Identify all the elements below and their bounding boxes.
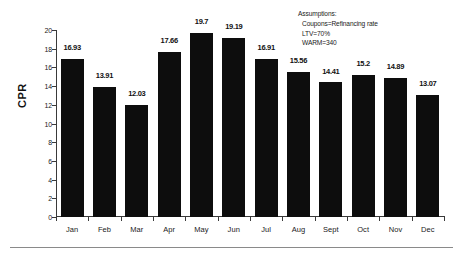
plot-area: 16.9313.9112.0317.6619.719.1916.9115.561… [56, 30, 444, 217]
y-axis-title: CPR [16, 83, 28, 108]
bar-value-label: 13.07 [419, 80, 436, 88]
bar[interactable] [125, 105, 148, 217]
x-tick-mark [153, 216, 154, 221]
y-tick-label: 4 [48, 176, 52, 183]
x-tick-mark [121, 216, 122, 221]
bar[interactable] [319, 82, 342, 217]
bar-group[interactable]: 13.07 [412, 30, 444, 217]
bar-value-label: 14.89 [387, 63, 404, 71]
bar-group[interactable]: 12.03 [121, 30, 153, 217]
x-tick-mark [88, 216, 89, 221]
footer-divider [10, 247, 453, 248]
bar-group[interactable]: 16.93 [56, 30, 88, 217]
category-label: Jan [56, 226, 88, 234]
bar-value-label: 16.91 [258, 44, 275, 52]
bar-chart-figure: CPR 16.9313.9112.0317.6619.719.1916.9115… [0, 0, 463, 261]
bar[interactable] [61, 59, 84, 217]
bar[interactable] [255, 59, 278, 217]
bar-group[interactable]: 13.91 [88, 30, 120, 217]
assumptions-annotation: Assumptions: Coupons=Refinancing rate LT… [298, 9, 378, 48]
y-tick-label: 0 [48, 214, 52, 221]
category-label: Jun [218, 226, 250, 234]
category-label: Jul [250, 226, 282, 234]
bar-value-label: 16.93 [64, 44, 81, 52]
x-tick-mark [347, 216, 348, 221]
y-tick-mark [52, 198, 57, 199]
bar-value-label: 12.03 [128, 90, 145, 98]
x-tick-mark [412, 216, 413, 221]
bar-group[interactable]: 14.89 [379, 30, 411, 217]
bar[interactable] [352, 75, 375, 217]
y-tick-mark [52, 161, 57, 162]
bar-group[interactable]: 17.66 [153, 30, 185, 217]
bar-group[interactable]: 16.91 [250, 30, 282, 217]
bar[interactable] [416, 95, 439, 217]
y-tick-mark [52, 180, 57, 181]
x-tick-mark [185, 216, 186, 221]
category-label: Mar [121, 226, 153, 234]
bar-value-label: 19.7 [195, 18, 208, 26]
bar-group[interactable]: 15.2 [347, 30, 379, 217]
x-tick-mark [379, 216, 380, 221]
bar-value-label: 17.66 [161, 37, 178, 45]
bar-value-label: 13.91 [96, 72, 113, 80]
assumptions-warm: WARM=340 [298, 38, 378, 48]
bar-group[interactable]: 14.41 [315, 30, 347, 217]
bar[interactable] [384, 78, 407, 217]
bar-group[interactable]: 19.7 [185, 30, 217, 217]
y-tick-label: 14 [45, 83, 52, 90]
y-tick-label: 10 [45, 120, 52, 127]
y-tick-label: 18 [45, 45, 52, 52]
y-tick-label: 20 [45, 27, 52, 34]
bar[interactable] [190, 33, 213, 217]
x-tick-mark [282, 216, 283, 221]
y-tick-label: 12 [45, 101, 52, 108]
x-tick-mark [56, 216, 57, 221]
x-tick-mark [250, 216, 251, 221]
x-tick-mark [444, 216, 445, 221]
category-label: Aug [282, 226, 314, 234]
bar[interactable] [287, 72, 310, 217]
category-label: Dec [412, 226, 444, 234]
y-tick-label: 16 [45, 64, 52, 71]
bar-value-label: 19.19 [225, 23, 242, 31]
y-tick-mark [52, 124, 57, 125]
category-label: Nov [379, 226, 411, 234]
y-tick-label: 6 [48, 157, 52, 164]
bar-value-label: 15.2 [356, 60, 369, 68]
y-tick-mark [52, 142, 57, 143]
y-tick-mark [52, 30, 57, 31]
bar[interactable] [222, 38, 245, 217]
assumptions-title: Assumptions: [298, 9, 378, 19]
y-tick-mark [52, 49, 57, 50]
bar[interactable] [158, 52, 181, 217]
category-label: Sept [315, 226, 347, 234]
x-tick-mark [218, 216, 219, 221]
assumptions-coupons: Coupons=Refinancing rate [298, 19, 378, 29]
bar-value-label: 15.56 [290, 57, 307, 65]
y-tick-mark [52, 86, 57, 87]
y-tick-label: 2 [48, 195, 52, 202]
category-label: Oct [347, 226, 379, 234]
assumptions-ltv: LTV=70% [298, 29, 378, 39]
bar-group[interactable]: 19.19 [218, 30, 250, 217]
bar[interactable] [93, 87, 116, 217]
category-label: Feb [88, 226, 120, 234]
category-label: Apr [153, 226, 185, 234]
bar-group[interactable]: 15.56 [282, 30, 314, 217]
bar-value-label: 14.41 [322, 67, 339, 75]
y-tick-mark [52, 105, 57, 106]
x-tick-mark [315, 216, 316, 221]
y-tick-mark [52, 67, 57, 68]
category-label: May [185, 226, 217, 234]
y-tick-label: 8 [48, 139, 52, 146]
